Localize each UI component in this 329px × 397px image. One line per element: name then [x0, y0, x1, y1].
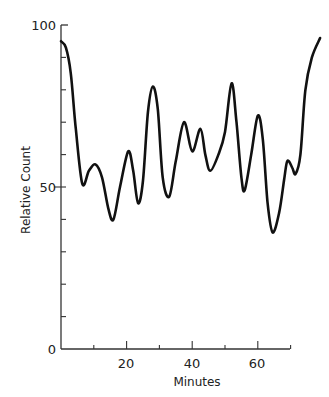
x-tick-label-40: 40 [184, 356, 201, 371]
x-axis-title: Minutes [173, 375, 220, 389]
y-tick-label-100: 100 [31, 18, 56, 33]
y-tick-label-0: 0 [48, 342, 56, 357]
y-axis-title: Relative Count [19, 146, 33, 234]
data-line [61, 38, 320, 233]
x-tick-label-20: 20 [118, 356, 135, 371]
x-tick-label-60: 60 [249, 356, 266, 371]
x-axis-ticks [94, 341, 291, 349]
line-chart: 100 50 0 20 40 60 Minutes Relative Count [0, 0, 329, 397]
y-tick-label-50: 50 [39, 180, 56, 195]
